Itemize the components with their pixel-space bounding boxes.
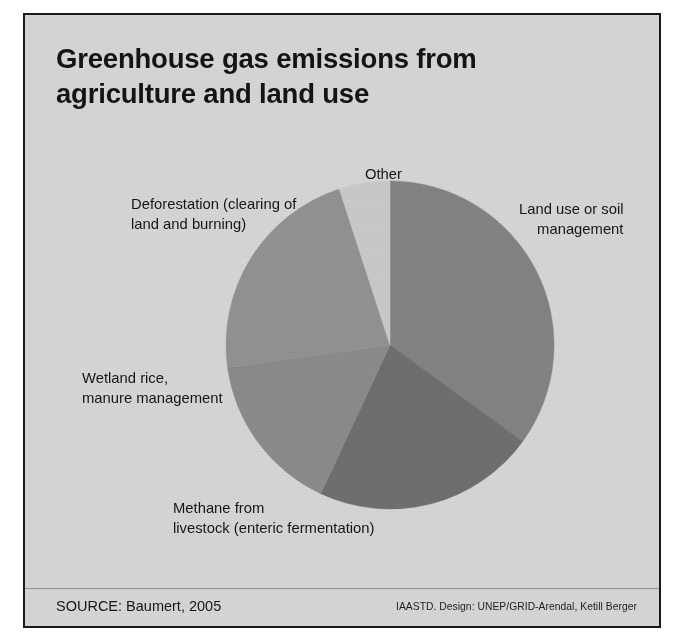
pie-label-deforestation: Deforestation (clearing of land and burn… (131, 195, 296, 234)
pie-label-land-use-or-soil-management: Land use or soil management (519, 200, 623, 239)
pie-label-deforestation-line-1: Deforestation (clearing of (131, 195, 296, 215)
pie-label-wetland-line-1: Wetland rice, (82, 369, 223, 389)
pie-label-other-text: Other (365, 166, 402, 182)
pie-label-landuse-line-2: management (519, 220, 623, 240)
pie-label-deforestation-line-2: land and burning) (131, 215, 296, 235)
pie-label-wetland-line-2: manure management (82, 389, 223, 409)
pie-label-landuse-line-1: Land use or soil (519, 200, 623, 220)
figure-canvas: Greenhouse gas emissions from agricultur… (0, 0, 685, 644)
chart-panel: Greenhouse gas emissions from agricultur… (23, 13, 661, 628)
footer-divider (25, 588, 659, 589)
pie-label-wetland-rice-manure-management: Wetland rice, manure management (82, 369, 223, 408)
source-note: SOURCE: Baumert, 2005 (56, 598, 221, 614)
pie-label-methane-line-1: Methane from (173, 499, 374, 519)
pie-label-other: Other (365, 165, 402, 185)
pie-label-methane-line-2: livestock (enteric fermentation) (173, 519, 374, 539)
credit-note: IAASTD. Design: UNEP/GRID-Arendal, Ketil… (396, 601, 637, 612)
pie-label-methane-from-livestock: Methane from livestock (enteric fermenta… (173, 499, 374, 538)
